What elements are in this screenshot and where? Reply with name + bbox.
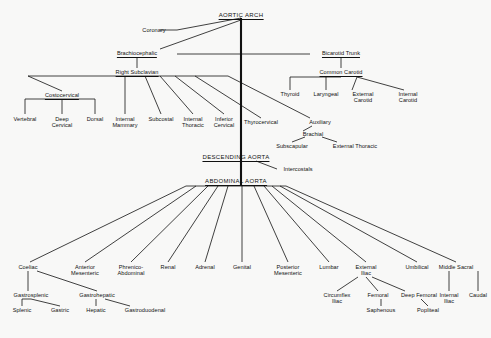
node-common_carotid: Common Carotid [320,69,363,77]
edge-right_subclavian-to-thyrocervical [195,76,261,118]
edge-brachial-to-external_thoracic [322,137,337,142]
edge-abdominal_aorta-to-coeliac [30,186,186,262]
node-subscapular: Subscapular [276,143,308,149]
node-brachiocephalic: Brachiocephalic [117,50,157,58]
arterial-branching-diagram: AORTIC ARCHCoronaryBrachiocephalicBicaro… [0,0,491,338]
edge-gastrosplenic-to-gastric [31,299,60,306]
node-gastrosplenic: Gastrosplenic [14,292,49,298]
node-laryngeal: Laryngeal [313,91,338,97]
edge-abdominal_aorta-to-umbilical [280,186,417,262]
node-caudal: Caudal [469,292,487,298]
edge-abdominal_aorta-to-middle_sacral [286,186,456,262]
edge-abdominal_aorta-to-anterior_mesenteric [85,186,196,262]
node-lumbar: Lumbar [319,264,338,270]
node-intercostals: Intercostals [283,166,312,172]
node-gastroduodenal: Gastroduodenal [125,307,166,313]
node-genital: Genital [233,264,251,270]
node-popliteal: Popliteal [417,307,439,313]
node-coeliac: Coeliac [18,264,37,270]
node-gastric: Gastric [51,307,69,313]
edge-right_subclavian-to-inferior_cervical [175,76,224,114]
node-femoral: Femoral [368,292,389,298]
node-costocervical: Costocervical [45,92,79,100]
edge-common_carotid-to-external_carotid [352,77,357,90]
node-gastrohepatic: Gastrohepatic [79,292,114,298]
node-hepatic: Hepatic [86,307,105,313]
edge-right_subclavian-to-internal_thoracic [160,76,193,114]
edge-external_iliac-to-circumflex_iliac [337,277,358,291]
node-splenic: Splenic [13,307,32,313]
node-circumflex_iliac: Circumflex Iliac [324,292,351,305]
node-dorsal: Dorsal [87,116,103,122]
node-external_carotid: External Carotid [353,91,374,104]
node-right_subclavian: Right Subclavian [116,69,159,77]
edge-brachial-to-subscapular [292,137,305,142]
edge-gastrohepatic-to-gastroduodenal [105,299,130,306]
node-brachial: Brachial [303,131,324,137]
edge-aortic_arch-to-coronary [177,18,241,30]
node-internal_carotid: Internal Carotid [398,91,417,104]
edge-abdominal_aorta-to-adrenal [205,186,228,262]
edge-abdominal_aorta-to-phrenico_abdominal [131,186,208,262]
node-posterior_mesenteric: Posterior Mesenteric [274,264,302,277]
edge-abdominal_aorta-to-posterior_mesenteric [254,186,288,262]
edge-common_carotid-to-internal_carotid [357,77,404,90]
node-external_thoracic: External Thoracic [333,143,377,149]
node-internal_mammary: Internal Mammary [112,116,137,129]
edge-descending_aorta-to-intercostals [256,161,277,169]
node-vertebral: Vertebral [14,116,37,122]
node-adrenal: Adrenal [195,264,215,270]
edge-abdominal_aorta-to-renal [168,186,218,262]
node-inferior_cervical: Inferior Cervical [214,116,235,129]
node-descending_aorta: DESCENDING AORTA [202,154,269,162]
edge-deep_femoral-to-popliteal [421,299,428,306]
node-aortic_arch: AORTIC ARCH [219,12,264,20]
edge-aortic_arch-to-brachiocephalic [160,20,241,49]
node-deep_cervical: Deep Cervical [52,116,73,129]
node-auxiliary: Auxiliary [309,119,331,125]
node-anterior_mesenteric: Anterior Mesenteric [71,264,99,277]
connector-lines [0,0,491,338]
node-external_iliac: External Iliac [356,264,377,277]
node-subcostal: Subcostal [148,116,173,122]
edge-right_subclavian-to-subcostal [145,76,161,114]
node-deep_femoral: Deep Femoral [401,292,437,298]
node-middle_sacral: Middle Sacral [439,264,474,270]
node-internal_thoracic: Internal Thoracic [182,116,204,129]
node-renal: Renal [161,264,176,270]
node-thyroid: Thyroid [280,91,299,97]
edge-right_subclavian-to-costocervical [28,76,62,91]
node-phrenico_abdominal: Phrenico- Abdominal [118,264,145,277]
node-saphenous: Saphenous [367,307,396,313]
edge-external_iliac-to-deep_femoral [372,277,405,291]
node-bicarotid_trunk: Bicarotid Trunk [322,50,360,58]
node-internal_iliac: Internal Iliac [439,292,458,305]
node-umbilical: Umbilical [405,264,428,270]
node-coronary: Coronary [142,27,165,33]
node-abdominal_aorta: ABDOMINAL AORTA [205,178,267,186]
node-thyrocervical: Thyrocervical [244,119,278,125]
